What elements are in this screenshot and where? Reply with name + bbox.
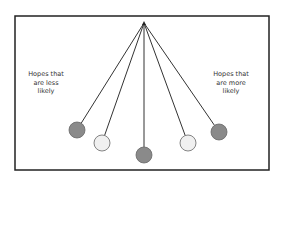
label-line: are less: [21, 79, 71, 88]
pendulum-bob-center: [136, 147, 152, 163]
label-line: Hopes that: [206, 70, 256, 79]
pendulum-bob-near-right: [180, 135, 196, 151]
label-line: likely: [206, 87, 256, 96]
label-line: are more: [206, 79, 256, 88]
pendulum-bob-near-left: [94, 135, 110, 151]
pendulum-bob-far-right: [211, 124, 227, 140]
label-less-likely: Hopes that are less likely: [21, 70, 71, 96]
label-more-likely: Hopes that are more likely: [206, 70, 256, 96]
pendulum-bob-far-left: [69, 122, 85, 138]
label-line: Hopes that: [21, 70, 71, 79]
label-line: likely: [21, 87, 71, 96]
